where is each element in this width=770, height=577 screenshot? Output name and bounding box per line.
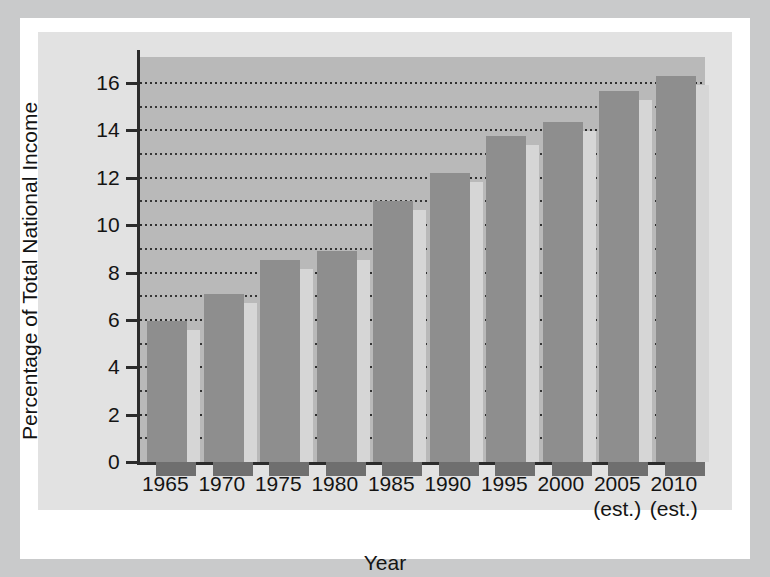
y-axis-tick-label: 2 [108, 403, 120, 427]
bar-highlight [639, 100, 652, 462]
y-axis-title: Percentage of Total National Income [18, 102, 42, 440]
bar-highlight [696, 85, 709, 462]
y-axis-tick-label: 10 [96, 213, 120, 237]
x-axis-tick-label-note: (est.) [646, 496, 703, 521]
bar [147, 321, 187, 462]
y-axis-tick-label: 12 [96, 166, 120, 190]
x-axis-tick-label: 2010(est.) [646, 471, 703, 521]
bar-highlight [187, 330, 200, 462]
y-axis-tick [126, 272, 140, 275]
bar-highlight [470, 182, 483, 462]
y-axis-tick [126, 319, 140, 322]
x-axis-tick-label: 1995 [476, 471, 533, 496]
x-axis-tick-label-note: (est.) [589, 496, 646, 521]
y-axis-tick-label: 8 [108, 261, 120, 285]
bar [486, 136, 526, 462]
bar [599, 91, 639, 462]
y-axis-tick-label: 16 [96, 71, 120, 95]
x-axis-tick-label: 1965 [137, 471, 194, 496]
plot-area: 0246810121416 19651970197519801985199019… [140, 57, 705, 462]
bar-highlight [583, 131, 596, 462]
x-axis-tick-label: 2000 [533, 471, 590, 496]
y-axis-tick [126, 224, 140, 227]
bar [543, 122, 583, 462]
bar [260, 260, 300, 463]
bar [430, 173, 470, 462]
figure-frame: Percentage of Total National Income Year… [0, 0, 770, 577]
x-axis-title: Year [38, 551, 732, 575]
y-axis-tick [126, 461, 140, 464]
bar-chart: Percentage of Total National Income Year… [38, 32, 732, 510]
bar-highlight [244, 303, 257, 462]
x-axis-tick-label: 1975 [250, 471, 307, 496]
bar-highlight [357, 260, 370, 462]
bar-highlight [300, 269, 313, 463]
bar [317, 251, 357, 462]
x-axis-tick-label: 1970 [194, 471, 251, 496]
x-axis-tick-label: 1985 [363, 471, 420, 496]
bar [373, 201, 413, 462]
y-axis-tick-label: 14 [96, 118, 120, 142]
y-axis-tick [126, 129, 140, 132]
bar-highlight [413, 210, 426, 462]
y-axis-tick [126, 177, 140, 180]
y-axis-tick-label: 0 [108, 450, 120, 474]
bar [656, 76, 696, 462]
x-axis-tick-label: 1990 [420, 471, 477, 496]
y-axis-tick [126, 414, 140, 417]
x-axis-tick-label: 2005(est.) [589, 471, 646, 521]
y-axis-tick [126, 366, 140, 369]
y-axis-line [137, 50, 140, 462]
bar-highlight [526, 145, 539, 462]
gridline [140, 82, 705, 84]
y-axis-tick [126, 82, 140, 85]
y-axis-tick-label: 6 [108, 308, 120, 332]
y-axis-tick-label: 4 [108, 355, 120, 379]
x-axis-tick-label: 1980 [307, 471, 364, 496]
bar [204, 294, 244, 462]
